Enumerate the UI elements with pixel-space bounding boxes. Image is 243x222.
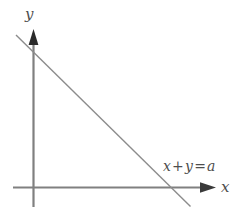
equation-term-a: a <box>207 158 216 174</box>
axis-label-y: y <box>25 7 33 22</box>
axis-label-x: x <box>221 180 229 195</box>
y-axis-arrowhead <box>29 29 39 45</box>
figure-canvas: y x x+y=a <box>0 0 243 222</box>
coordinate-plot <box>0 0 243 222</box>
equation-plus-sign: + <box>171 158 185 174</box>
equation-term-y: y <box>185 158 193 174</box>
equation-label: x+y=a <box>163 159 216 173</box>
equation-term-x: x <box>163 158 171 174</box>
equation-equals-sign: = <box>193 158 207 174</box>
line-x-plus-y-equals-a <box>16 35 191 207</box>
x-axis-arrowhead <box>200 182 216 193</box>
